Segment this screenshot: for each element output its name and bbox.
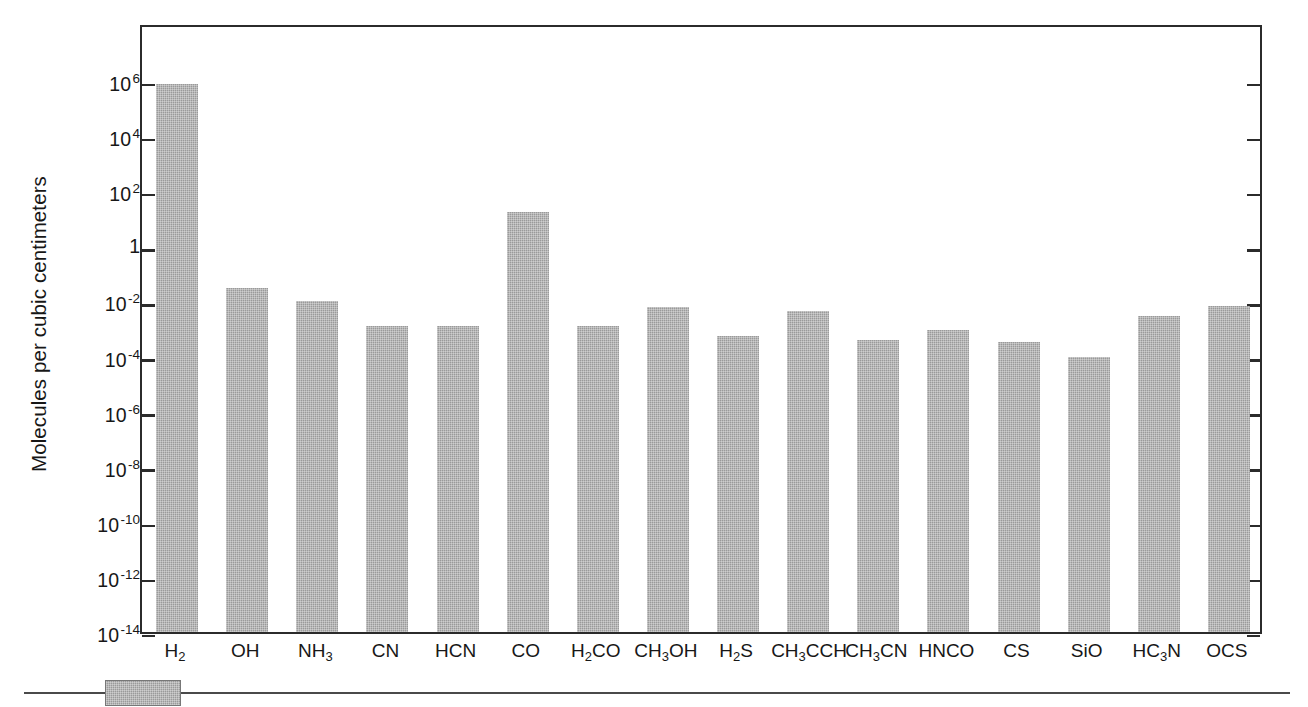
x-tick-label-oh: OH — [210, 641, 280, 660]
bar-cs — [998, 342, 1040, 632]
bar-cn — [366, 326, 408, 632]
y-tick-left — [142, 359, 155, 362]
y-tick-left — [142, 580, 155, 583]
x-tick-label-co: CO — [491, 641, 561, 660]
y-tick-exponent: -14 — [120, 622, 140, 637]
bar-hcn — [437, 326, 479, 632]
y-tick-left — [142, 84, 155, 87]
x-tick-label-sio: SiO — [1052, 641, 1122, 660]
footer-divider — [24, 692, 1290, 694]
bar-sio — [1068, 357, 1110, 633]
y-tick-mantissa: 10 — [109, 73, 131, 95]
y-tick-label: 10-14 — [97, 623, 140, 645]
x-tick-label-nh3: NH3 — [280, 641, 350, 660]
x-tick-label-ch3cn: CH3CN — [841, 641, 911, 660]
y-tick-mantissa: 1 — [129, 235, 140, 257]
y-tick-exponent: -2 — [128, 291, 140, 306]
y-tick-left — [142, 414, 155, 417]
y-tick-label: 102 — [109, 182, 140, 204]
footer-color-swatch — [105, 680, 181, 706]
x-tick-label-h2co: H2CO — [561, 641, 631, 660]
y-tick-mantissa: 10 — [105, 293, 127, 315]
x-tick-label-h2: H2 — [140, 641, 210, 660]
y-tick-mantissa: 10 — [97, 568, 119, 590]
x-tick-label-h2s: H2S — [701, 641, 771, 660]
bar-nh3 — [296, 301, 338, 632]
y-tick-label: 10-6 — [105, 403, 140, 425]
y-tick-right — [1247, 635, 1260, 638]
bar-ch3cn — [857, 340, 899, 632]
bar-hnco — [927, 330, 969, 632]
x-tick-label-ch3oh: CH3OH — [631, 641, 701, 660]
y-tick-label: 10-12 — [97, 568, 140, 590]
y-axis-title: Molecules per cubic centimeters — [27, 114, 51, 534]
y-tick-exponent: 6 — [132, 71, 140, 86]
figure: Molecules per cubic centimeters 10610410… — [0, 0, 1308, 707]
x-tick-label-ch3cch: CH3CCH — [771, 641, 841, 660]
y-tick-mantissa: 10 — [105, 458, 127, 480]
y-tick-exponent: -12 — [120, 567, 140, 582]
bar-hc3n — [1138, 316, 1180, 632]
y-tick-label: 104 — [109, 127, 140, 149]
x-tick-label-hcn: HCN — [421, 641, 491, 660]
y-tick-left — [142, 635, 155, 638]
x-tick-label-hnco: HNCO — [911, 641, 981, 660]
x-tick-label-hc3n: HC3N — [1122, 641, 1192, 660]
y-tick-left — [142, 194, 155, 197]
plot-area — [140, 25, 1262, 634]
y-tick-exponent: -10 — [120, 512, 140, 527]
y-tick-left — [142, 469, 155, 472]
y-tick-right — [1247, 194, 1260, 197]
y-tick-left — [142, 525, 155, 528]
bar-oh — [226, 288, 268, 632]
y-tick-left — [142, 249, 155, 252]
y-tick-left — [142, 139, 155, 142]
bar-ch3cch — [787, 311, 829, 632]
y-tick-mantissa: 10 — [109, 183, 131, 205]
y-tick-exponent: -4 — [128, 347, 140, 362]
y-tick-left — [142, 304, 155, 307]
x-tick-label-ocs: OCS — [1192, 641, 1262, 660]
y-tick-right — [1247, 84, 1260, 87]
bar-h2co — [577, 326, 619, 632]
y-tick-mantissa: 10 — [105, 403, 127, 425]
y-tick-exponent: -6 — [128, 402, 140, 417]
y-tick-label: 10-4 — [105, 348, 140, 370]
x-tick-label-cn: CN — [350, 641, 420, 660]
bar-ch3oh — [647, 307, 689, 632]
y-tick-label: 1 — [129, 237, 140, 257]
y-tick-exponent: -8 — [128, 457, 140, 472]
y-tick-mantissa: 10 — [105, 348, 127, 370]
y-tick-exponent: 4 — [132, 126, 140, 141]
bar-ocs — [1208, 306, 1250, 632]
y-tick-label: 10-8 — [105, 458, 140, 480]
y-tick-right — [1247, 139, 1260, 142]
y-tick-label: 106 — [109, 72, 140, 94]
y-tick-exponent: 2 — [132, 181, 140, 196]
y-tick-mantissa: 10 — [97, 513, 119, 535]
y-tick-label: 10-2 — [105, 292, 140, 314]
bar-h2s — [717, 336, 759, 632]
bar-co — [507, 212, 549, 632]
x-tick-label-cs: CS — [982, 641, 1052, 660]
y-tick-mantissa: 10 — [109, 128, 131, 150]
y-tick-mantissa: 10 — [97, 624, 119, 646]
bar-h2 — [156, 84, 198, 632]
y-tick-right — [1247, 249, 1260, 252]
y-tick-label: 10-10 — [97, 513, 140, 535]
